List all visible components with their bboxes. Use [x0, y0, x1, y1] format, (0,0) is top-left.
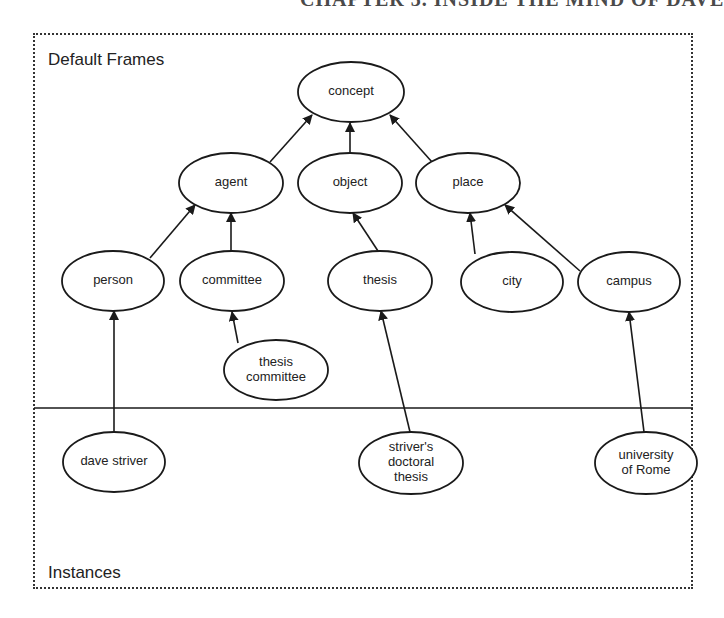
node-label: city [502, 273, 522, 288]
node-person: person [62, 251, 164, 311]
node-thesis-committee: thesiscommittee [224, 340, 328, 400]
edge-person-to-agent [150, 205, 195, 258]
node-label: university [619, 447, 674, 462]
node-object: object [298, 153, 402, 213]
edge-city-to-place [470, 213, 475, 254]
node-thesis: thesis [328, 251, 432, 311]
node-label: agent [215, 174, 248, 189]
node-label: place [452, 174, 483, 189]
node-label: person [93, 272, 133, 287]
node-university-of-rome: universityof Rome [595, 432, 697, 494]
node-label: of Rome [621, 462, 670, 477]
node-dave-striver: dave striver [63, 432, 165, 492]
node-label: doctoral [388, 454, 434, 469]
node-label: thesis [259, 354, 293, 369]
node-label: thesis [394, 469, 428, 484]
node-label: object [333, 174, 368, 189]
node-label: campus [606, 273, 652, 288]
node-strivers-doctoral-thesis: striver'sdoctoralthesis [359, 432, 463, 494]
node-label: thesis [363, 272, 397, 287]
edge-agent-to-concept [270, 115, 312, 162]
nodes: conceptagentobjectplacepersoncommitteeth… [62, 62, 697, 494]
edge-thesis-to-object [353, 213, 378, 251]
node-committee: committee [180, 251, 284, 311]
node-concept: concept [298, 62, 404, 122]
node-label: concept [328, 83, 374, 98]
node-label: dave striver [80, 453, 148, 468]
node-label: committee [202, 272, 262, 287]
node-campus: campus [578, 252, 680, 312]
edge-thesis-committee-to-committee [232, 312, 238, 343]
node-place: place [416, 153, 520, 213]
node-label: striver's [389, 439, 434, 454]
frame-hierarchy-diagram: conceptagentobjectplacepersoncommitteeth… [0, 0, 724, 618]
node-label: committee [246, 369, 306, 384]
edge-university-of-rome-to-campus [629, 312, 644, 432]
edge-place-to-concept [390, 115, 432, 162]
node-city: city [461, 252, 563, 312]
node-agent: agent [179, 153, 283, 213]
edge-strivers-doctoral-thesis-to-thesis [381, 311, 410, 432]
